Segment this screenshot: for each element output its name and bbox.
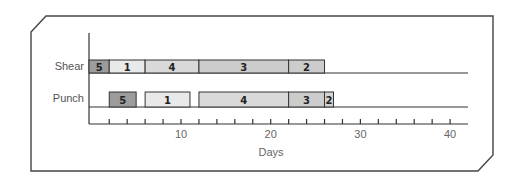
x-tick-label: 10 xyxy=(175,128,187,140)
x-tick-label: 20 xyxy=(265,128,277,140)
bar-segment-punch-1: 1 xyxy=(145,92,190,107)
bar-segment-shear-4: 4 xyxy=(145,60,199,73)
svg-text:1: 1 xyxy=(124,62,131,73)
x-tick-label: 40 xyxy=(444,128,456,140)
bar-segment-shear-5: 5 xyxy=(89,60,109,73)
gantt-chart: 10203040 Shear Punch 5143251432 Days xyxy=(0,0,517,185)
bar-segment-punch-2: 2 xyxy=(325,92,334,107)
svg-text:5: 5 xyxy=(119,95,126,106)
svg-text:3: 3 xyxy=(303,95,310,106)
bar-segment-shear-1: 1 xyxy=(109,60,145,73)
svg-text:2: 2 xyxy=(326,95,333,106)
row-label-punch: Punch xyxy=(53,92,84,104)
bar-segment-shear-3: 3 xyxy=(199,60,289,73)
x-tick-label: 30 xyxy=(354,128,366,140)
bar-segment-punch-5: 5 xyxy=(109,92,136,107)
row-label-shear: Shear xyxy=(55,60,85,72)
bar-segment-punch-4: 4 xyxy=(199,92,289,107)
bar-segment-punch-3: 3 xyxy=(289,92,325,107)
svg-text:2: 2 xyxy=(303,62,310,73)
svg-text:4: 4 xyxy=(169,62,176,73)
x-axis-title: Days xyxy=(258,146,284,158)
bar-segment-shear-2: 2 xyxy=(289,60,325,73)
svg-text:3: 3 xyxy=(240,62,247,73)
svg-text:5: 5 xyxy=(96,62,103,73)
svg-text:1: 1 xyxy=(164,95,171,106)
svg-text:4: 4 xyxy=(240,95,247,106)
